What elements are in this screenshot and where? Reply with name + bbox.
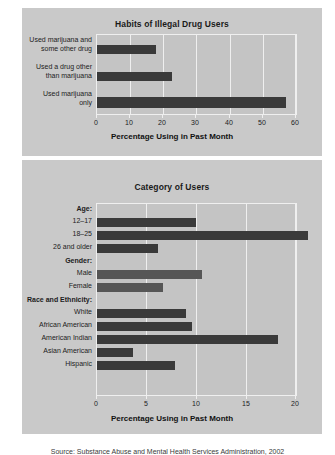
bar-habits-1 (97, 72, 172, 81)
tick (195, 115, 196, 118)
ylabel-category-18-25: 18–25 (22, 230, 92, 239)
xtick-label: 60 (285, 119, 305, 126)
figure-page: Habits of Illegal Drug Users 0 10 20 30 … (0, 0, 335, 455)
x-axis-title-habits: Percentage Using in Past Month (22, 132, 322, 141)
xtick-label: 20 (285, 400, 305, 407)
tick (246, 396, 247, 399)
ylabel-category-american-indian: American Indian (22, 334, 92, 343)
xtick-label: 15 (236, 400, 256, 407)
bar-category-female (97, 283, 163, 292)
ylabel-habits-1: Used a drug other than marijuana (22, 63, 92, 80)
xtick-label: 30 (185, 119, 205, 126)
bar-category-asian-american (97, 348, 133, 357)
ylabel-line: Used marijuana and (22, 36, 92, 45)
bar-category-12-17 (97, 218, 196, 227)
bar-category-american-indian (97, 335, 278, 344)
tick (146, 396, 147, 399)
tick (229, 115, 230, 118)
bar-habits-2 (97, 97, 286, 108)
bar-category-18-25 (97, 231, 308, 240)
ylabel-line: than marijuana (22, 72, 92, 81)
chart-panel-habits: Habits of Illegal Drug Users 0 10 20 30 … (22, 8, 322, 156)
tick (162, 115, 163, 118)
ylabel-line: some other drug (22, 45, 92, 54)
x-axis-title-category: Percentage Using in Past Month (22, 414, 322, 423)
ylabel-line: Used a drug other (22, 63, 92, 72)
xtick-label: 20 (152, 119, 172, 126)
ylabel-habits-0: Used marijuana and some other drug (22, 36, 92, 53)
tick (196, 396, 197, 399)
bar-habits-0 (97, 45, 156, 54)
plot-area-habits (96, 34, 297, 115)
xtick-label: 40 (219, 119, 239, 126)
bar-category-26-older (97, 244, 158, 253)
ylabel-category-african-american: African American (22, 321, 92, 330)
tick (295, 396, 296, 399)
chart-title-habits: Habits of Illegal Drug Users (22, 19, 322, 29)
tick (262, 115, 263, 118)
plot-area-category (96, 203, 297, 396)
bar-category-hispanic (97, 361, 175, 370)
bar-category-male (97, 270, 202, 279)
ylabel-category-white: White (22, 308, 92, 317)
bar-category-african-american (97, 322, 192, 331)
x-axis-line-habits (96, 114, 296, 115)
tick (96, 115, 97, 118)
xtick-label: 0 (86, 400, 106, 407)
figure-caption: Source: Substance Abuse and Mental Healt… (0, 448, 335, 455)
ylabel-category-asian-american: Asian American (22, 347, 92, 356)
xtick-label: 50 (252, 119, 272, 126)
ylabel-category-female: Female (22, 282, 92, 291)
ylabel-category-26-older: 26 and older (22, 243, 92, 252)
ylabel-line: only (22, 99, 92, 108)
ylabel-habits-2: Used marijuana only (22, 90, 92, 107)
ylabel-line: Used marijuana (22, 90, 92, 99)
tick (96, 396, 97, 399)
tick (295, 115, 296, 118)
xtick-label: 10 (186, 400, 206, 407)
ylabel-group-age: Age: (22, 205, 92, 214)
ylabel-category-12-17: 12–17 (22, 217, 92, 226)
ylabel-category-male: Male (22, 269, 92, 278)
ylabel-group-gender: Gender: (22, 257, 92, 266)
chart-panel-category: Category of Users 0 5 10 (22, 160, 322, 434)
chart-title-category: Category of Users (22, 182, 322, 192)
tick (129, 115, 130, 118)
ylabel-group-race: Race and Ethnicity: (22, 296, 92, 305)
gridline (295, 35, 296, 115)
bar-category-white (97, 309, 186, 318)
xtick-label: 5 (136, 400, 156, 407)
xtick-label: 10 (119, 119, 139, 126)
xtick-label: 0 (86, 119, 106, 126)
ylabel-category-hispanic: Hispanic (22, 360, 92, 369)
